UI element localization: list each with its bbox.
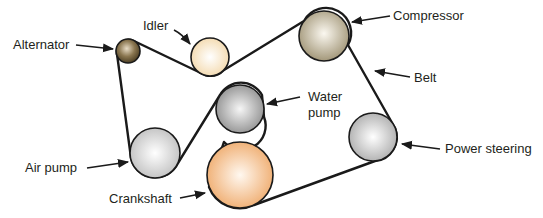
belt-arrow bbox=[375, 71, 410, 77]
idler-pulley bbox=[191, 38, 229, 76]
water-pump-arrow bbox=[267, 97, 300, 104]
alternator-label: Alternator bbox=[13, 37, 70, 52]
serpentine-belt-diagram: Alternator Idler Compressor Belt Water p… bbox=[0, 0, 543, 218]
water-pump-label-line1: Water bbox=[308, 89, 343, 104]
idler-label: Idler bbox=[143, 18, 169, 33]
compressor-label: Compressor bbox=[393, 8, 464, 23]
water-pump-pulley bbox=[216, 85, 264, 133]
air-pump-label: Air pump bbox=[25, 160, 77, 175]
water-pump-label-line2: pump bbox=[308, 105, 341, 120]
power-steering-pulley bbox=[349, 113, 397, 161]
alternator-arrow bbox=[76, 45, 113, 49]
crankshaft-pulley bbox=[207, 142, 273, 208]
crankshaft-arrow bbox=[180, 193, 205, 198]
compressor-pulley bbox=[299, 11, 349, 61]
power-steering-label: Power steering bbox=[445, 141, 532, 156]
compressor-arrow bbox=[352, 16, 390, 22]
belt-label: Belt bbox=[414, 70, 437, 85]
crankshaft-label: Crankshaft bbox=[109, 191, 172, 206]
alternator-pulley bbox=[116, 39, 140, 63]
air-pump-pulley bbox=[130, 128, 180, 178]
idler-arrow bbox=[174, 30, 190, 44]
air-pump-arrow bbox=[87, 162, 128, 168]
power-steering-arrow bbox=[402, 144, 440, 149]
